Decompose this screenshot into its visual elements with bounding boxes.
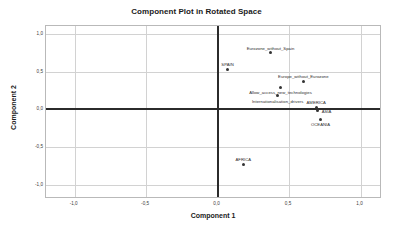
x-tick-label: -0,5	[141, 201, 149, 206]
data-point	[319, 118, 322, 121]
plot-area: Eurozone_without_SpainSPAINEurope_withou…	[45, 25, 381, 198]
x-axis-tick-labels: -1,0-0,50,00,51,0	[45, 201, 381, 211]
data-point	[316, 109, 319, 112]
data-point-label: Europe_without_Eurozone	[278, 74, 329, 79]
data-point	[315, 106, 318, 109]
y-tick-label: -0,5	[25, 144, 43, 149]
x-axis-title: Component 1	[45, 212, 381, 219]
data-point-label: OCEANIA	[311, 122, 330, 127]
y-tick-label: 0,5	[25, 68, 43, 73]
data-point-label: AFRICA	[235, 157, 251, 162]
gridline-x-0,5	[289, 26, 290, 197]
gridline-y-1,0	[46, 34, 380, 35]
y-tick-label: 1,0	[25, 30, 43, 35]
gridline-y--1,0	[46, 185, 380, 186]
data-point-label: Eurozone_without_Spain	[247, 46, 295, 51]
gridline-y-0,5	[46, 72, 380, 73]
data-point	[242, 163, 245, 166]
data-point	[226, 68, 229, 71]
data-point-label: AMERICA	[307, 100, 326, 105]
data-point	[279, 86, 282, 89]
data-point	[276, 94, 279, 97]
data-point-label: SPAIN	[221, 62, 234, 67]
gridline-x--0,5	[146, 26, 147, 197]
data-point-label: ASIA	[322, 109, 332, 114]
x-tick-label: 1,0	[356, 201, 362, 206]
y-axis-title: Component 2	[10, 18, 17, 198]
data-point-label: Allow_access_new_technologies	[249, 90, 312, 95]
data-point-label: Internationalisation_drivers	[252, 99, 303, 104]
component-plot-figure: Component Plot in Rotated Space Eurozone…	[0, 0, 393, 240]
gridline-x-1,0	[361, 26, 362, 197]
gridline-x--1,0	[75, 26, 76, 197]
x-tick-label: -1,0	[70, 201, 78, 206]
y-axis-tick-labels: 1,00,50,0-0,5-1,0	[21, 25, 43, 198]
vertical-reference-line	[217, 26, 219, 197]
gridline-y--0,5	[46, 147, 380, 148]
y-tick-label: 0,0	[25, 106, 43, 111]
y-tick-label: -1,0	[25, 182, 43, 187]
x-tick-label: 0,0	[213, 201, 219, 206]
data-point	[269, 51, 272, 54]
data-point	[302, 80, 305, 83]
chart-title: Component Plot in Rotated Space	[0, 7, 393, 16]
x-tick-label: 0,5	[285, 201, 291, 206]
